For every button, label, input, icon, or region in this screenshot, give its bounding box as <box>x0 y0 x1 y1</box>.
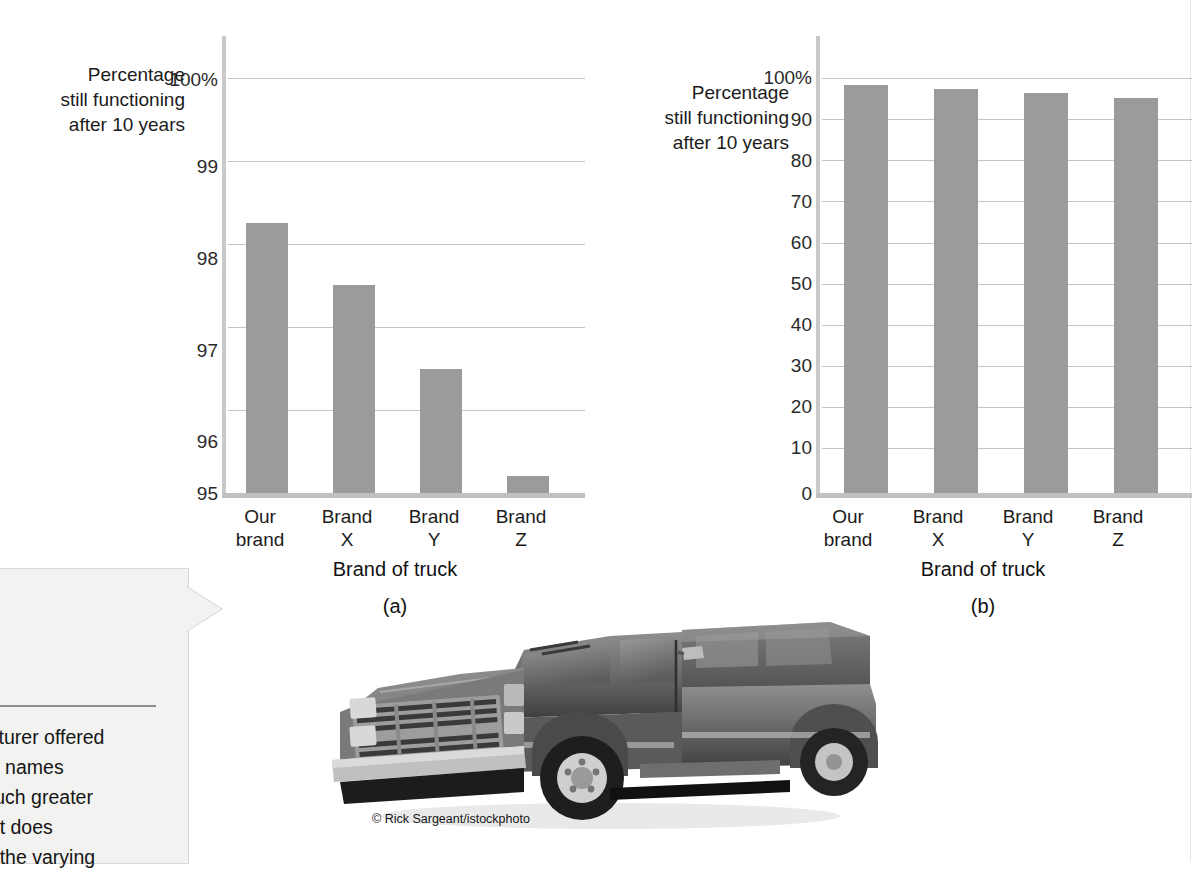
truck-photo <box>310 592 910 840</box>
chart-a-bar-brand-y <box>420 369 462 493</box>
callout-text: acturer offered nd names much greater ha… <box>0 722 178 872</box>
chart-b-caption: (b) <box>923 595 1043 618</box>
chart-b-ytick-80: 80 <box>732 151 812 170</box>
chart-panel-a: Percentage still functioning after 10 ye… <box>0 0 600 630</box>
chart-a-ytick-98: 98 <box>140 249 218 268</box>
chart-a-xtick-brand-y: Brand Y <box>386 505 482 551</box>
chart-a-gridline-100 <box>228 78 585 79</box>
chart-a-xtick-brand-z: Brand Z <box>473 505 569 551</box>
chart-b-y-axis-spine <box>816 36 820 498</box>
chart-b-gridline-100 <box>822 78 1192 79</box>
chart-a-gridline-99 <box>228 161 585 162</box>
chart-b-xtick-our-brand: Our brand <box>800 505 896 551</box>
chart-b-ytick-0: 0 <box>732 484 812 503</box>
chart-b-ytick-100: 100% <box>732 68 812 87</box>
chart-b-ytick-50: 50 <box>732 274 812 293</box>
chart-a-ytick-99: 99 <box>140 157 218 176</box>
chart-b-ytick-60: 60 <box>732 233 812 252</box>
chart-b-x-axis-title: Brand of truck <box>873 558 1093 581</box>
chart-b-ytick-20: 20 <box>732 397 812 416</box>
callout-tail <box>187 587 221 631</box>
chart-a-x-axis-title: Brand of truck <box>285 558 505 581</box>
chart-a-xtick-our-brand: Our brand <box>212 505 308 551</box>
chart-a-y-axis-spine <box>222 36 226 498</box>
chart-b-xtick-brand-x: Brand X <box>890 505 986 551</box>
chart-a-ytick-97: 97 <box>140 341 218 360</box>
chart-a-ytick-96: 96 <box>140 432 218 451</box>
chart-b-ytick-70: 70 <box>732 192 812 211</box>
chart-b-bar-brand-z <box>1114 98 1158 493</box>
photo-credit: © Rick Sargeant/istockphoto <box>372 812 530 826</box>
chart-b-xtick-brand-z: Brand Z <box>1070 505 1166 551</box>
chart-b-xtick-brand-y: Brand Y <box>980 505 1076 551</box>
chart-a-plot-area <box>228 36 585 498</box>
chart-b-bar-brand-x <box>934 89 978 493</box>
chart-a-bar-brand-x <box>333 285 375 493</box>
chart-b-ytick-30: 30 <box>732 356 812 375</box>
chart-b-x-axis-spine <box>816 493 1192 498</box>
chart-a-ytick-95: 95 <box>140 484 218 503</box>
chart-b-bar-brand-y <box>1024 93 1068 493</box>
chart-b-plot-area <box>822 36 1192 498</box>
chart-a-xtick-brand-x: Brand X <box>299 505 395 551</box>
callout-divider <box>0 705 156 707</box>
chart-a-x-axis-spine <box>222 493 585 498</box>
chart-b-ytick-40: 40 <box>732 315 812 334</box>
chart-panel-b: Percentage still functioning after 10 ye… <box>604 0 1204 630</box>
truck-illustration-svg <box>310 592 910 840</box>
chart-b-ytick-10: 10 <box>732 438 812 457</box>
chart-b-ytick-90: 90 <box>732 110 812 129</box>
chart-a-bar-our-brand <box>246 223 288 493</box>
chart-b-bar-our-brand <box>844 85 888 493</box>
chart-a-bar-brand-z <box>507 476 549 493</box>
chart-a-ytick-100: 100% <box>140 70 218 89</box>
